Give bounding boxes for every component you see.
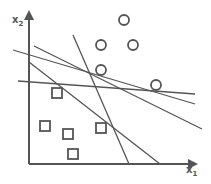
circle-point bbox=[96, 65, 106, 75]
decision-line bbox=[29, 62, 160, 164]
square-point bbox=[68, 149, 78, 159]
decision-boundaries bbox=[13, 35, 202, 164]
circle-point bbox=[96, 40, 106, 50]
circle-point bbox=[119, 15, 129, 25]
circle-point bbox=[151, 80, 161, 90]
x-axis-label-subscript: 1 bbox=[192, 170, 197, 178]
y-axis-label-subscript: 2 bbox=[18, 20, 23, 28]
class-circle-points bbox=[96, 15, 161, 90]
decision-line bbox=[73, 35, 129, 164]
separating-hyperplanes-diagram bbox=[0, 0, 211, 184]
square-point bbox=[96, 123, 106, 133]
decision-line bbox=[13, 50, 195, 104]
x-axis-label: x1 bbox=[186, 164, 197, 178]
class-square-points bbox=[40, 88, 106, 159]
square-point bbox=[40, 121, 50, 131]
square-point bbox=[63, 129, 73, 139]
decision-line bbox=[18, 81, 195, 94]
square-point bbox=[52, 88, 62, 98]
circle-point bbox=[128, 40, 138, 50]
y-axis-label: x2 bbox=[12, 14, 23, 28]
